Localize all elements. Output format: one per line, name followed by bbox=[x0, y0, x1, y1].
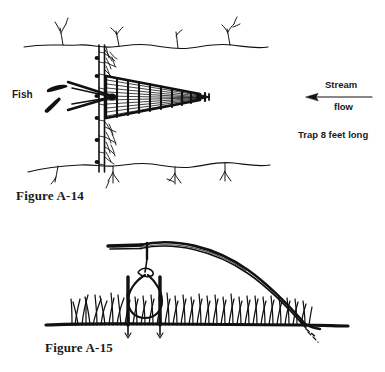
trap-length-label: Trap 8 feet long bbox=[298, 129, 368, 140]
figure-a14-illustration bbox=[0, 0, 385, 215]
stream-fish-trap-drawing bbox=[0, 0, 385, 215]
figure-page: Fish Stream flow Trap 8 feet long Figure… bbox=[0, 0, 385, 372]
funnel-throat-node bbox=[108, 93, 116, 100]
stream-label: Stream bbox=[325, 79, 357, 90]
flow-label: flow bbox=[334, 101, 353, 112]
figure-a14-canvas bbox=[0, 0, 385, 215]
figure-a15-caption: Figure A-15 bbox=[45, 340, 113, 356]
fish-label: Fish bbox=[12, 89, 33, 100]
figure-a14-caption: Figure A-14 bbox=[16, 188, 84, 204]
